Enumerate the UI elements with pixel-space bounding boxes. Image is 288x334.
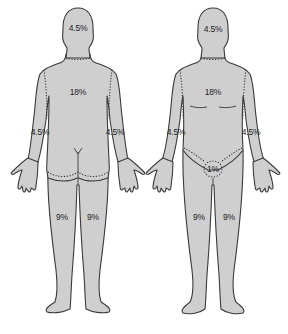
body-figures xyxy=(0,0,288,334)
back-right-arm-label: 4.5% xyxy=(106,127,125,137)
back-right-leg-label: 9% xyxy=(87,212,99,222)
front-left-leg-label: 9% xyxy=(193,212,205,222)
front-genitalia-label: 1% xyxy=(207,164,219,174)
back-view-figure xyxy=(11,8,145,313)
front-trunk-label: 18% xyxy=(205,87,221,97)
front-right-leg-label: 9% xyxy=(223,212,235,222)
front-right-arm-label: 4.5% xyxy=(242,127,261,137)
front-head-label: 4.5% xyxy=(204,24,223,34)
rule-of-nines-diagram: 4.5% 18% 4.5% 4.5% 9% 9% 4.5% 18% 4.5% 4… xyxy=(0,0,288,334)
front-view-figure xyxy=(146,8,280,314)
back-head-label: 4.5% xyxy=(69,23,88,33)
front-left-arm-label: 4.5% xyxy=(167,127,186,137)
back-left-arm-label: 4.5% xyxy=(31,127,50,137)
back-trunk-label: 18% xyxy=(70,87,86,97)
back-left-leg-label: 9% xyxy=(56,212,68,222)
